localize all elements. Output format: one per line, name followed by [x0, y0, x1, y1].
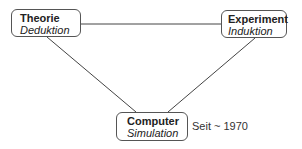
node-theorie-subtitle: Deduktion: [20, 24, 80, 36]
node-theorie-title: Theorie: [20, 12, 80, 24]
node-experiment-subtitle: Induktion: [228, 25, 286, 37]
node-computer-subtitle: Simulation: [127, 127, 187, 139]
node-experiment-title: Experiment: [228, 13, 286, 25]
node-experiment: Experiment Induktion: [221, 10, 287, 38]
edge-experiment-computer: [168, 38, 255, 112]
node-theorie: Theorie Deduktion: [11, 9, 81, 37]
node-computer-title: Computer: [127, 115, 187, 127]
since-note: Seit ~ 1970: [192, 120, 248, 132]
node-computer: Computer Simulation: [116, 112, 188, 141]
edge-theorie-computer: [47, 37, 136, 112]
